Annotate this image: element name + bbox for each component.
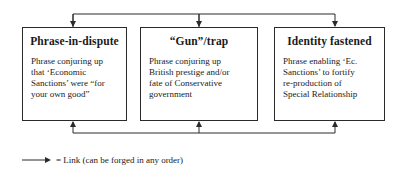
legend: = Link (can be forged in any order): [22, 155, 183, 165]
text-line: Phrase enabling ‘Ec.: [283, 56, 384, 67]
text-line: Phrase conjuring up: [31, 56, 126, 67]
text-line: British prestige and/or: [149, 67, 257, 78]
text-line: re-production of: [283, 78, 384, 89]
text-line: Phrase conjuring up: [149, 56, 257, 67]
box-phrase-in-dispute: Phrase-in-dispute Phrase conjuring up th…: [22, 27, 127, 121]
text-line: Sanctions’ to fortify: [283, 67, 384, 78]
box-title: Identity fastened: [275, 35, 384, 47]
arrow-icon: [22, 156, 52, 164]
legend-text: = Link (can be forged in any order): [56, 155, 183, 165]
box-title: “Gun”/trap: [141, 35, 257, 47]
text-line: fate of Conservative: [149, 78, 257, 89]
box-description: Phrase conjuring up that ‘Economic Sanct…: [31, 56, 126, 100]
text-line: government: [149, 89, 257, 100]
text-line: Sanctions’ were “for: [31, 78, 126, 89]
box-title: Phrase-in-dispute: [23, 35, 126, 47]
box-description: Phrase enabling ‘Ec. Sanctions’ to forti…: [283, 56, 384, 100]
text-line: Special Relationship: [283, 89, 384, 100]
text-line: that ‘Economic: [31, 67, 126, 78]
text-line: your own good”: [31, 89, 126, 100]
box-identity-fastened: Identity fastened Phrase enabling ‘Ec. S…: [274, 27, 385, 121]
box-gun-trap: “Gun”/trap Phrase conjuring up British p…: [140, 27, 258, 121]
box-description: Phrase conjuring up British prestige and…: [149, 56, 257, 100]
